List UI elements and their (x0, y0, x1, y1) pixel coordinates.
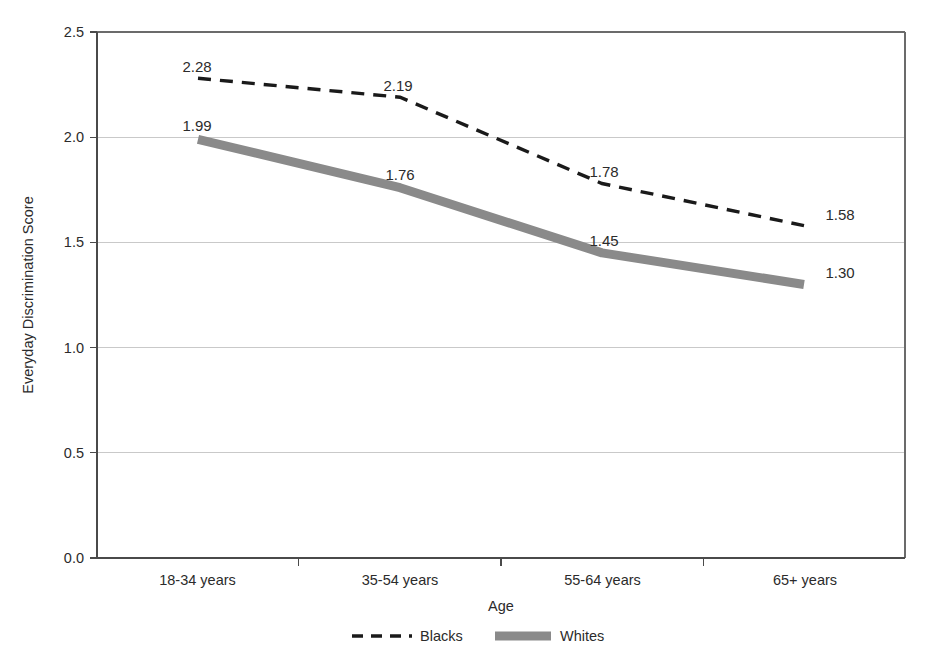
y-tick-label-3: 1.5 (64, 234, 84, 250)
y-axis-title: Everyday Discrimination Score (20, 196, 36, 393)
y-tick-label-1: 0.5 (64, 445, 84, 461)
y-tick-label-0: 0.0 (64, 550, 84, 566)
legend-label-whites: Whites (560, 628, 604, 644)
data-label-whites-2: 1.45 (589, 232, 618, 249)
chart-container: 0.0 0.5 1.0 1.5 2.0 2.5 18-34 years 35-5… (0, 0, 931, 668)
data-label-blacks-1: 2.19 (383, 77, 412, 94)
chart-background (0, 0, 931, 668)
y-tick-label-4: 2.0 (64, 129, 84, 145)
x-category-label-3: 65+ years (773, 572, 837, 588)
x-category-label-1: 35-54 years (362, 572, 439, 588)
data-label-whites-0: 1.99 (182, 117, 211, 134)
data-label-blacks-3: 1.58 (825, 206, 854, 223)
y-tick-label-5: 2.5 (64, 24, 84, 40)
x-axis-title: Age (488, 598, 514, 614)
data-label-blacks-0: 2.28 (182, 58, 211, 75)
x-category-label-2: 55-64 years (564, 572, 641, 588)
x-category-label-0: 18-34 years (159, 572, 236, 588)
legend-label-blacks: Blacks (420, 628, 463, 644)
y-tick-label-2: 1.0 (64, 340, 84, 356)
line-chart: 0.0 0.5 1.0 1.5 2.0 2.5 18-34 years 35-5… (0, 0, 931, 668)
data-label-blacks-2: 1.78 (589, 163, 618, 180)
data-label-whites-3: 1.30 (825, 264, 854, 281)
data-label-whites-1: 1.76 (385, 166, 414, 183)
